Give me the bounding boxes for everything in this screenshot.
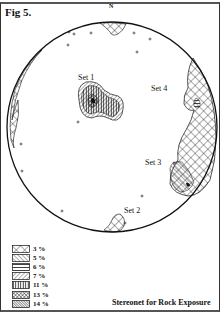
legend-item-14pct: 14 % [12, 299, 49, 308]
legend-item-7pct: 7 % [12, 272, 49, 281]
pattern-diagonal-fwd-icon [12, 272, 30, 280]
pattern-crosshatch-fine-icon [12, 291, 30, 299]
legend-item-11pct: 11 % [12, 281, 49, 290]
north-cluster [100, 23, 126, 35]
set-label-1: Set 1 [78, 73, 94, 82]
legend-item-3pct: 3 % [12, 244, 49, 253]
pattern-diagonal-dense-icon [12, 300, 30, 308]
west-edge-band [10, 50, 42, 148]
set-label-4: Set 4 [151, 84, 167, 93]
north-label: N [109, 3, 113, 9]
pattern-vertical-icon [12, 281, 30, 289]
pattern-crosshatch-coarse-icon [12, 245, 30, 253]
legend-item-6pct: 6 % [12, 262, 49, 271]
pattern-horizontal-icon [12, 263, 30, 271]
pattern-diagonal-back-icon [12, 254, 30, 262]
legend-item-5pct: 5 % [12, 253, 49, 262]
set1-cluster-11pct [82, 86, 120, 117]
pole-points [20, 31, 175, 224]
set2-cluster [104, 214, 125, 232]
legend-item-13pct: 13 % [12, 290, 49, 299]
set-label-3: Set 3 [145, 158, 161, 167]
set-label-2: Set 2 [124, 206, 140, 215]
figure-caption: Stereonet for Rock Exposure [112, 298, 210, 307]
legend: 3 % 5 % 6 % 7 % 11 % 13 % 14 % [12, 244, 49, 308]
